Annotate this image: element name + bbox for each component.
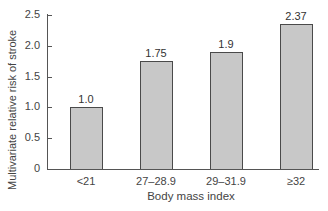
x-axis-title: Body mass index	[91, 190, 291, 202]
y-tick-2.5	[47, 15, 52, 16]
bar-lt21	[70, 107, 103, 169]
bar-gte32	[280, 24, 313, 169]
bar-chart: Multivariate relative risk of stroke 2.5…	[0, 0, 328, 211]
y-axis-line	[47, 14, 48, 170]
bar-value-29-31.9: 1.9	[206, 38, 246, 50]
x-category-lt21: <21	[56, 175, 116, 187]
bar-value-27-28.9: 1.75	[136, 47, 176, 59]
bar-29-31.9	[210, 52, 243, 169]
y-tick-label-2.0: 2.0	[16, 39, 40, 51]
y-tick-label-1.0: 1.0	[16, 100, 40, 112]
x-category-27-28.9: 27–28.9	[126, 175, 186, 187]
y-tick-1.0	[47, 107, 52, 108]
y-tick-0.5	[47, 138, 52, 139]
x-category-29-31.9: 29–31.9	[196, 175, 256, 187]
bar-27-28.9	[140, 61, 173, 169]
y-tick-label-2.5: 2.5	[16, 8, 40, 20]
y-tick-label-0: 0	[16, 162, 40, 174]
x-axis-line	[47, 169, 319, 170]
x-category-gte32: ≥32	[266, 175, 326, 187]
bar-value-gte32: 2.37	[276, 10, 316, 22]
y-tick-label-1.5: 1.5	[16, 70, 40, 82]
y-tick-label-0.5: 0.5	[16, 131, 40, 143]
bar-value-lt21: 1.0	[66, 93, 106, 105]
y-tick-1.5	[47, 77, 52, 78]
y-tick-2.0	[47, 46, 52, 47]
